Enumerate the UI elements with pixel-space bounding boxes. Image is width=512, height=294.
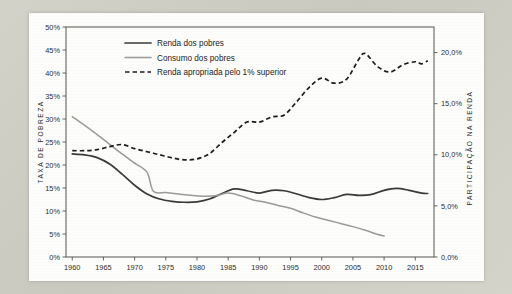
svg-text:2000: 2000 [314, 263, 330, 272]
chart-page: 0%5%10%15%20%25%30%35%40%45%50% 0,0%5,0%… [29, 13, 484, 281]
svg-text:2005: 2005 [345, 263, 361, 272]
chart-legend: Renda dos pobresConsumo dos pobresRenda … [125, 39, 287, 77]
svg-text:1980: 1980 [189, 263, 205, 272]
y-axis-left-ticks: 0%5%10%15%20%25%30%35%40%45%50% [45, 23, 66, 262]
svg-text:2015: 2015 [407, 263, 423, 272]
legend-label-1: Consumo dos pobres [157, 54, 235, 63]
svg-text:1970: 1970 [126, 263, 142, 272]
y-axis-right-ticks: 0,0%5,0%10,0%15,0%20,0% [434, 48, 462, 261]
svg-text:1990: 1990 [251, 263, 267, 272]
svg-text:15,0%: 15,0% [441, 99, 462, 108]
svg-text:40%: 40% [45, 69, 60, 78]
series-group [72, 53, 428, 236]
svg-text:20,0%: 20,0% [441, 48, 462, 57]
svg-text:15%: 15% [45, 184, 60, 193]
series-line-0 [72, 154, 428, 202]
svg-text:25%: 25% [45, 138, 60, 147]
svg-text:1960: 1960 [64, 263, 80, 272]
series-line-1 [72, 117, 384, 236]
svg-text:45%: 45% [45, 46, 60, 55]
photo-frame-background: 0%5%10%15%20%25%30%35%40%45%50% 0,0%5,0%… [0, 0, 512, 294]
svg-text:2010: 2010 [376, 263, 392, 272]
svg-text:20%: 20% [45, 161, 60, 170]
svg-text:1985: 1985 [220, 263, 236, 272]
svg-text:0,0%: 0,0% [441, 253, 458, 262]
svg-text:5%: 5% [49, 230, 60, 239]
y-axis-left-title: TAXA DE POBREZA [37, 100, 44, 183]
svg-text:5,0%: 5,0% [441, 202, 458, 211]
svg-text:10%: 10% [45, 207, 60, 216]
chart-figure: 0%5%10%15%20%25%30%35%40%45%50% 0,0%5,0%… [29, 13, 484, 281]
svg-text:30%: 30% [45, 115, 60, 124]
svg-text:1965: 1965 [95, 263, 111, 272]
legend-label-2: Renda apropriada pelo 1% superior [157, 68, 287, 77]
x-axis-ticks: 1960196519701975198019851990199520002005… [64, 257, 424, 272]
svg-text:1975: 1975 [158, 263, 174, 272]
svg-text:50%: 50% [45, 23, 60, 32]
legend-label-0: Renda dos pobres [157, 39, 224, 48]
svg-text:10,0%: 10,0% [441, 150, 462, 159]
svg-text:1995: 1995 [282, 263, 298, 272]
line-chart: 0%5%10%15%20%25%30%35%40%45%50% 0,0%5,0%… [29, 13, 484, 281]
axes-group [66, 27, 434, 257]
svg-text:0%: 0% [49, 253, 60, 262]
y-axis-right-title: PARTICIPAÇÃO NA RENDA [465, 90, 474, 205]
svg-text:35%: 35% [45, 92, 60, 101]
